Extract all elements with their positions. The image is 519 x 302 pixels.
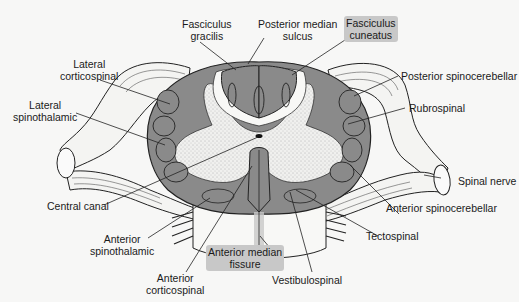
label-line: Anterior (146, 272, 204, 284)
label-line: Anterior (90, 233, 154, 245)
label-anterior-median-fissure: Anterior median fissure (206, 245, 284, 271)
label-posterior-median-sulcus: Posterior median sulcus (258, 18, 337, 42)
label-anterior-corticospinal: Anterior corticospinal (146, 272, 204, 296)
label-fasciculus-gracilis: Fasciculus gracilis (182, 18, 232, 42)
label-tectospinal: Tectospinal (366, 230, 419, 242)
label-line: Anterior median (208, 246, 282, 258)
label-line: fissure (208, 258, 282, 270)
left-nerve-cut-end (57, 148, 75, 178)
label-spinal-nerve: Spinal nerve (458, 175, 516, 187)
label-line: corticospinal (146, 284, 204, 296)
spinal-cord-diagram: Fasciculus gracilis Posterior median sul… (0, 0, 519, 302)
label-line: Posterior median (258, 18, 337, 30)
label-line: Lateral (13, 99, 77, 111)
label-line: spinothalamic (13, 111, 77, 123)
label-line: corticospinal (60, 70, 118, 82)
label-fasciculus-cuneatus: Fasciculus cuneatus (344, 16, 398, 42)
label-line: gracilis (182, 30, 232, 42)
label-line: Fasciculus (346, 17, 396, 29)
label-anterior-spinothalamic: Anterior spinothalamic (90, 233, 154, 257)
anterior-tract-right (284, 189, 316, 203)
label-line: Fasciculus (182, 18, 232, 30)
label-rubrospinal: Rubrospinal (409, 102, 465, 114)
label-lateral-corticospinal: Lateral corticospinal (60, 58, 118, 82)
label-posterior-spinocerebellar: Posterior spinocerebellar (401, 70, 517, 82)
anterior-tract-left (202, 189, 234, 203)
label-central-canal: Central canal (47, 200, 109, 212)
label-line: sulcus (258, 30, 337, 42)
label-line: spinothalamic (90, 245, 154, 257)
label-anterior-spinocerebellar: Anterior spinocerebellar (386, 202, 497, 214)
label-line: cuneatus (346, 29, 396, 41)
label-line: Lateral (60, 58, 118, 70)
label-lateral-spinothalamic: Lateral spinothalamic (13, 99, 77, 123)
label-vestibulospinal: Vestibulospinal (272, 274, 342, 286)
